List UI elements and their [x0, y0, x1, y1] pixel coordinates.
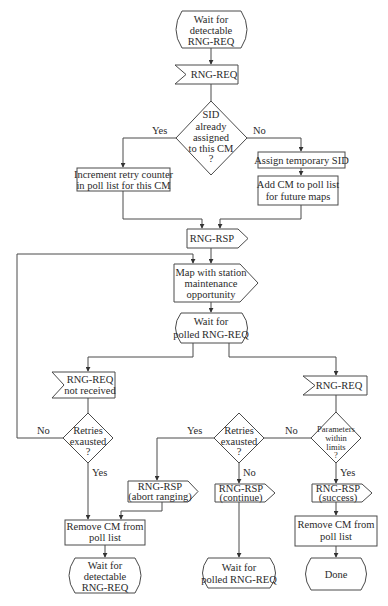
- svg-text:Wait for: Wait for: [88, 560, 123, 571]
- rng-rsp-continue-send: RNG-RSP (continue): [215, 483, 275, 504]
- svg-text:Add CM to poll list: Add CM to poll list: [257, 179, 339, 190]
- svg-text:Retries: Retries: [224, 425, 254, 436]
- svg-text:poll list: poll list: [320, 531, 352, 542]
- svg-text:Wait for: Wait for: [222, 562, 257, 573]
- svg-text:Remove CM from: Remove CM from: [67, 521, 144, 532]
- svg-text:polled RNG-REQ: polled RNG-REQ: [173, 329, 249, 340]
- params-yes-label: Yes: [340, 467, 355, 478]
- svg-text:poll list: poll list: [89, 532, 121, 543]
- svg-text:opportunity: opportunity: [187, 289, 237, 300]
- svg-text:already: already: [196, 121, 228, 132]
- end-wait-detectable-terminator: Wait for detectable RNG-REQ: [69, 558, 141, 593]
- svg-text:Assign temporary SID: Assign temporary SID: [254, 155, 349, 166]
- svg-text:assigned: assigned: [193, 132, 230, 143]
- add-cm-process: Add CM to poll list for future maps: [257, 176, 339, 205]
- svg-text:RNG-REQ: RNG-REQ: [188, 36, 235, 47]
- svg-text:Wait for: Wait for: [194, 14, 229, 25]
- svg-text:in poll list for this CM: in poll list for this CM: [76, 180, 171, 191]
- sid-yes-label: Yes: [152, 125, 167, 136]
- svg-text:RNG-REQ: RNG-REQ: [316, 380, 363, 391]
- start-terminator: Wait for detectable RNG-REQ: [176, 11, 247, 48]
- svg-text:detectable: detectable: [190, 25, 233, 36]
- svg-text:Map with station: Map with station: [175, 267, 247, 278]
- mid-yes-label: Yes: [187, 425, 202, 436]
- sid-assigned-decision: SID already assigned to this CM ?: [176, 101, 247, 175]
- increment-retry-process: Increment retry counter in poll list for…: [74, 168, 174, 191]
- retries-exhausted-left-decision: Retries exausted ?: [63, 413, 113, 463]
- left-yes-label: Yes: [92, 467, 107, 478]
- params-no-label: No: [285, 425, 298, 436]
- map-opportunity-send: Map with station maintenance opportunity: [174, 264, 258, 302]
- left-no-label: No: [37, 425, 50, 436]
- parameters-within-limits-decision: Parameters within limits ?: [311, 412, 361, 463]
- svg-text:for future maps: for future maps: [266, 191, 331, 202]
- svg-text:Done: Done: [325, 569, 348, 580]
- ranging-flowchart: Wait for detectable RNG-REQ RNG-REQ SID …: [0, 0, 388, 606]
- svg-text:polled RNG-REQ: polled RNG-REQ: [201, 574, 277, 585]
- svg-text:?: ?: [237, 446, 242, 457]
- rng-req-right-receive: RNG-REQ: [303, 376, 367, 395]
- svg-text:SID: SID: [203, 109, 220, 120]
- svg-text:RNG-REQ: RNG-REQ: [67, 374, 114, 385]
- rng-rsp-send: RNG-RSP: [187, 229, 248, 248]
- retries-exhausted-mid-decision: Retries exausted ?: [214, 413, 264, 463]
- svg-text:detectable: detectable: [84, 571, 127, 582]
- rng-rsp-abort-send: RNG-RSP (abort ranging): [128, 481, 198, 503]
- svg-text:maintenance: maintenance: [184, 278, 237, 289]
- mid-no-label: No: [243, 467, 256, 478]
- svg-text:Wait for: Wait for: [194, 316, 229, 327]
- remove-cm-left-process: Remove CM from poll list: [65, 520, 145, 545]
- wait-polled-terminator: Wait for polled RNG-REQ: [173, 313, 249, 343]
- end-wait-polled-terminator: Wait for polled RNG-REQ: [201, 558, 277, 588]
- rng-req-not-received: RNG-REQ not received: [52, 372, 117, 398]
- svg-text:?: ?: [209, 153, 214, 164]
- done-terminator: Done: [306, 558, 367, 590]
- rng-req-receive: RNG-REQ: [175, 65, 238, 84]
- assign-sid-process: Assign temporary SID: [254, 152, 349, 168]
- svg-text:(abort ranging): (abort ranging): [128, 491, 192, 503]
- svg-text:RNG-REQ: RNG-REQ: [82, 582, 129, 593]
- sid-no-label: No: [253, 125, 266, 136]
- svg-text:not received: not received: [64, 385, 116, 396]
- svg-text:RNG-RSP: RNG-RSP: [190, 233, 235, 244]
- svg-text:Increment retry counter: Increment retry counter: [74, 169, 174, 180]
- svg-text:Retries: Retries: [73, 425, 103, 436]
- svg-text:RNG-REQ: RNG-REQ: [191, 69, 238, 80]
- svg-text:?: ?: [86, 446, 91, 457]
- svg-text:(success): (success): [319, 492, 358, 504]
- svg-text:?: ?: [334, 450, 338, 460]
- svg-text:Remove CM from: Remove CM from: [298, 519, 375, 530]
- svg-text:(continue): (continue): [219, 492, 263, 504]
- rng-rsp-success-send: RNG-RSP (success): [312, 483, 372, 504]
- remove-cm-right-process: Remove CM from poll list: [295, 516, 377, 546]
